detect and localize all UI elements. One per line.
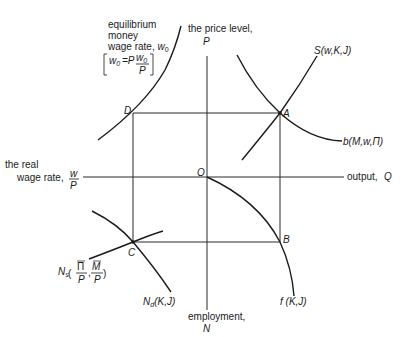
production-curve-label: f (K,J): [280, 296, 307, 307]
right-bracket: [150, 54, 153, 75]
demand-curve: [237, 55, 342, 141]
origin-label: O: [197, 167, 205, 178]
labor-supply-arg2-den: P: [94, 274, 101, 285]
labor-supply-rparen: ): [103, 268, 106, 279]
point-A-marker: [278, 111, 282, 115]
price-level-label: the price level,: [188, 23, 252, 34]
point-A-label: A: [282, 108, 290, 119]
bracket-den: P: [139, 65, 146, 76]
supply-curve-label: S(w,K,J): [314, 45, 351, 56]
labor-supply-arg1-den: P: [78, 274, 85, 285]
employment-symbol: N: [203, 323, 211, 334]
bracket-eq: =P: [122, 55, 135, 66]
demand-curve-label: b(M,w,Π): [343, 136, 383, 147]
point-B-label: B: [283, 234, 290, 245]
bracket-lhs: w0: [109, 55, 120, 67]
price-level-symbol: P: [203, 36, 210, 47]
real-wage-symbol-num: w: [70, 168, 78, 179]
point-C-label: C: [128, 247, 136, 258]
labor-supply-comma: ,: [88, 267, 91, 278]
employment-label: employment,: [188, 311, 245, 322]
point-C-marker: [131, 240, 135, 244]
bracket-num: w0: [136, 52, 147, 64]
labor-supply-arg1-num: Π: [77, 261, 84, 272]
output-symbol: Q: [384, 171, 392, 182]
four-quadrant-diagram: D A B C O the price level, P output, Q e…: [0, 0, 404, 337]
money-wage-label-line1: equilibrium: [108, 19, 156, 30]
real-wage-symbol-den: P: [70, 180, 77, 191]
labor-supply-lparen: (: [68, 268, 72, 279]
real-wage-label-line1: the real: [5, 159, 38, 170]
point-D-label: D: [124, 105, 131, 116]
production-function-curve: [207, 177, 294, 296]
real-wage-label-line2: wage rate,: [16, 172, 64, 183]
output-label: output,: [347, 171, 378, 182]
labor-supply-arg2-num: M: [92, 261, 101, 272]
labor-demand-label: Nd(K,J): [143, 296, 175, 308]
left-bracket: [104, 54, 107, 75]
money-wage-label-line2: money: [108, 30, 138, 41]
